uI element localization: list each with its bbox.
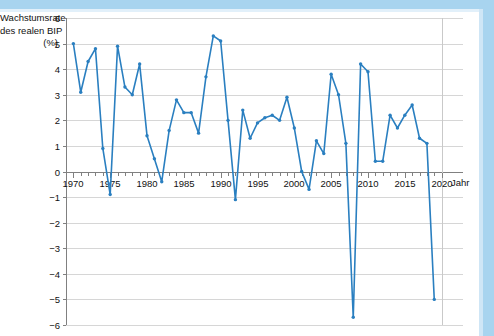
data-point	[234, 198, 237, 201]
data-point	[241, 108, 244, 111]
data-point	[403, 114, 406, 117]
data-point	[307, 188, 310, 191]
data-point	[226, 119, 229, 122]
data-point	[410, 103, 413, 106]
data-point	[101, 147, 104, 150]
data-point	[285, 96, 288, 99]
data-point	[293, 126, 296, 129]
data-point	[374, 160, 377, 163]
data-point	[388, 114, 391, 117]
data-point	[396, 126, 399, 129]
data-point	[145, 134, 148, 137]
gdp-growth-series	[0, 0, 494, 336]
data-point	[123, 85, 126, 88]
data-point	[108, 193, 111, 196]
series-line	[73, 36, 434, 317]
data-point	[329, 73, 332, 76]
data-point	[315, 139, 318, 142]
data-point	[197, 131, 200, 134]
data-point	[433, 298, 436, 301]
data-point	[160, 180, 163, 183]
data-point	[366, 70, 369, 73]
line-chart: Wachstumsrate des realen BIP (%) Jahr 65…	[0, 0, 494, 336]
chart-page: Wachstumsrate des realen BIP (%) Jahr 65…	[0, 0, 494, 336]
data-point	[138, 62, 141, 65]
data-point	[278, 119, 281, 122]
data-point	[190, 111, 193, 114]
data-point	[381, 160, 384, 163]
data-point	[94, 47, 97, 50]
data-point	[337, 93, 340, 96]
data-point	[79, 90, 82, 93]
data-point	[256, 121, 259, 124]
data-point	[116, 44, 119, 47]
data-point	[300, 170, 303, 173]
data-point	[182, 111, 185, 114]
data-point	[167, 129, 170, 132]
data-point	[131, 93, 134, 96]
data-point	[425, 142, 428, 145]
data-point	[86, 60, 89, 63]
data-point	[248, 137, 251, 140]
data-point	[271, 114, 274, 117]
data-point	[204, 75, 207, 78]
data-point	[263, 116, 266, 119]
data-point	[359, 62, 362, 65]
data-point	[153, 157, 156, 160]
data-point	[72, 42, 75, 45]
data-point	[418, 137, 421, 140]
data-point	[352, 316, 355, 319]
data-point	[344, 142, 347, 145]
data-point	[322, 152, 325, 155]
data-point	[175, 98, 178, 101]
data-point	[219, 39, 222, 42]
data-point	[212, 34, 215, 37]
